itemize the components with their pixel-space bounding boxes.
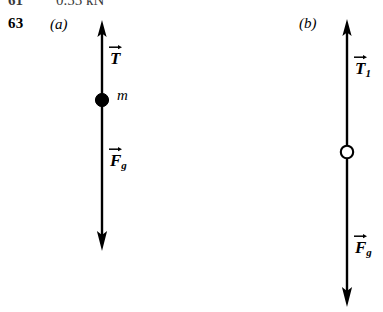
panel-a-gravity-arrow — [97, 100, 107, 251]
vector-symbol: F — [355, 238, 366, 257]
vector-symbol: T — [355, 59, 365, 78]
vector-symbol: F — [110, 151, 121, 170]
vector-label-tension-b: T 1 — [355, 60, 371, 79]
free-body-diagram-canvas — [0, 0, 383, 312]
vector-label-tension-a: T — [110, 50, 120, 67]
mass-label-a: m — [117, 87, 128, 104]
panel-b-ring-marker — [341, 146, 353, 158]
vector-arrow-overbar-icon — [354, 232, 367, 239]
vector-label-gravity-a: F g — [110, 152, 127, 171]
vector-subscript: g — [121, 159, 127, 171]
vector-label-gravity-b: F g — [355, 239, 372, 258]
vector-arrow-overbar-icon — [109, 43, 122, 50]
panel-b-gravity-arrow — [342, 152, 352, 307]
vector-subscript: g — [366, 246, 372, 258]
vector-symbol: T — [110, 49, 120, 68]
vector-arrow-overbar-icon — [354, 53, 367, 60]
panel-b-tension-arrow — [342, 19, 351, 152]
panel-a-point-mass-marker — [95, 93, 108, 106]
vector-subscript: 1 — [365, 67, 371, 79]
panel-a-tension-arrow — [97, 20, 106, 100]
vector-arrow-overbar-icon — [109, 145, 122, 152]
